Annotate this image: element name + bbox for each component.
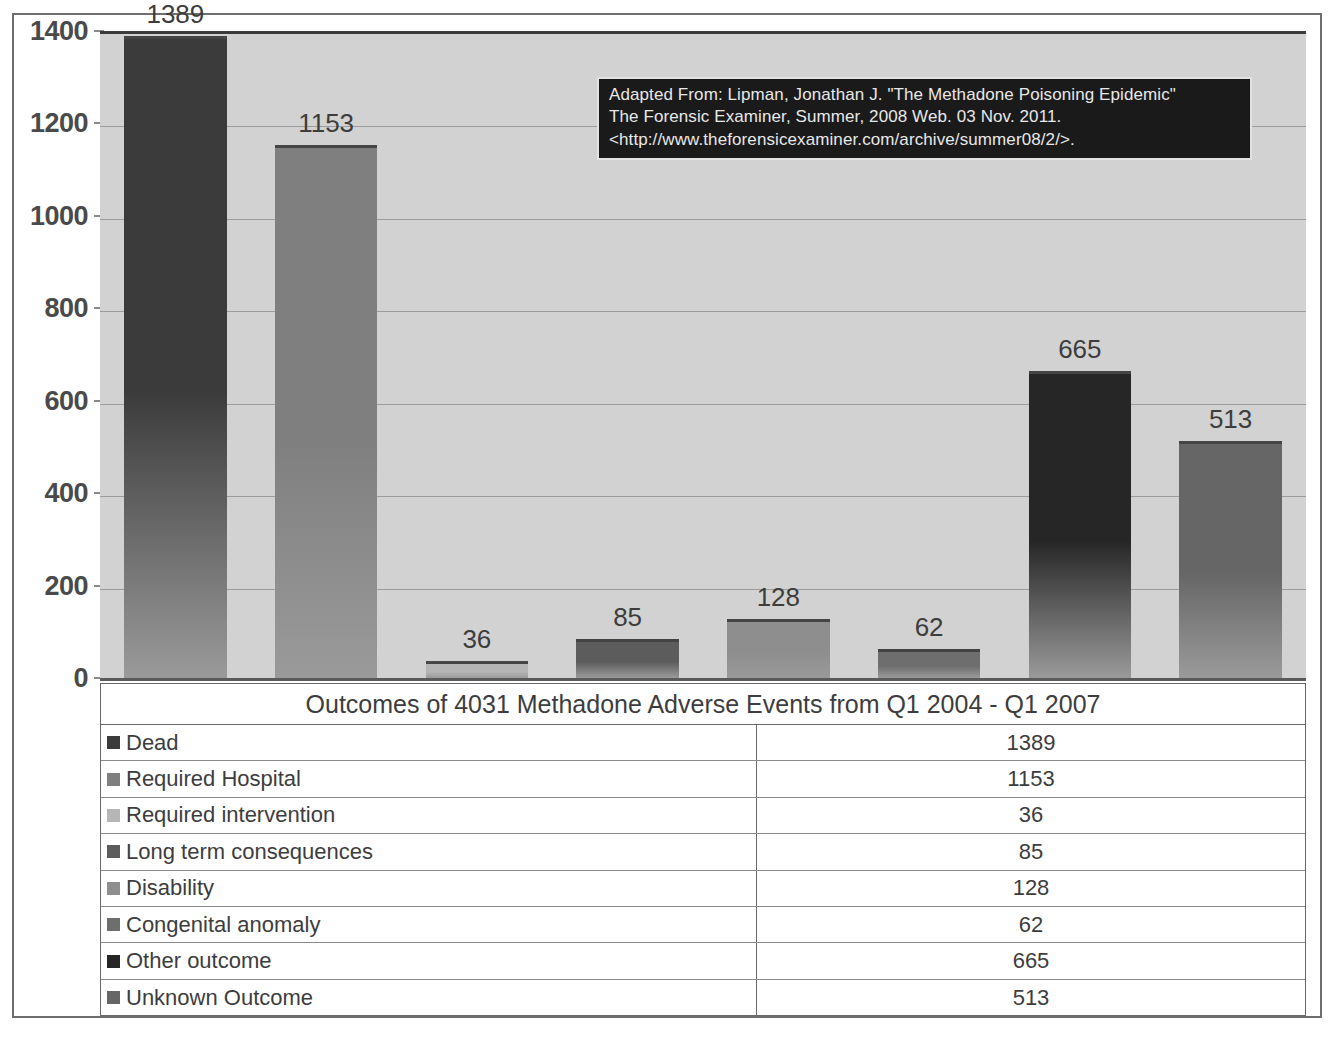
legend-swatch-icon (107, 845, 120, 858)
x-axis-baseline (100, 678, 1306, 681)
table-cell-label: Disability (101, 871, 757, 906)
bar-body (878, 649, 981, 678)
table-cell-value: 128 (757, 871, 1305, 906)
bar-value-label: 1153 (298, 108, 354, 139)
table-row: Long term consequences85 (101, 834, 1305, 870)
data-table: Outcomes of 4031 Methadone Adverse Event… (100, 683, 1306, 1016)
table-title-row: Outcomes of 4031 Methadone Adverse Event… (101, 684, 1305, 725)
table-row: Dead1389 (101, 725, 1305, 761)
bar-body (275, 145, 378, 678)
table-title: Outcomes of 4031 Methadone Adverse Event… (306, 690, 1101, 719)
citation-line-3: <http://www.theforensicexaminer.com/arch… (609, 129, 1242, 151)
y-axis-tick-label: 1400 (30, 16, 88, 47)
y-axis-tick-label: 1000 (30, 200, 88, 231)
y-axis-tick-label: 400 (44, 478, 88, 509)
bar: 62 (878, 649, 981, 678)
legend-swatch-icon (107, 918, 120, 931)
chart-figure: 0200400600800100012001400 13891153368512… (12, 13, 1322, 1018)
table-cell-value: 1153 (757, 761, 1305, 796)
table-row: Other outcome665 (101, 943, 1305, 979)
bar-body (1029, 371, 1132, 678)
bar-value-label: 1389 (146, 0, 204, 30)
bar-body (576, 639, 679, 678)
legend-swatch-icon (107, 991, 120, 1004)
table-cell-value: 665 (757, 943, 1305, 978)
table-body: Dead1389Required Hospital1153Required in… (101, 725, 1305, 1016)
series-label: Required intervention (126, 802, 335, 828)
table-cell-value: 36 (757, 798, 1305, 833)
y-axis-tick-label: 1200 (30, 108, 88, 139)
table-cell-value: 85 (757, 834, 1305, 869)
table-cell-label: Unknown Outcome (101, 980, 757, 1016)
table-cell-label: Other outcome (101, 943, 757, 978)
table-cell-label: Long term consequences (101, 834, 757, 869)
series-label: Other outcome (126, 948, 272, 974)
bar: 1389 (124, 36, 227, 678)
series-label: Congenital anomaly (126, 912, 320, 938)
y-axis: 0200400600800100012001400 (14, 15, 100, 683)
bar-body (727, 619, 830, 678)
bar-value-label: 513 (1209, 404, 1252, 435)
table-cell-label: Required Hospital (101, 761, 757, 796)
legend-swatch-icon (107, 773, 120, 786)
table-cell-label: Required intervention (101, 798, 757, 833)
legend-swatch-icon (107, 955, 120, 968)
table-row: Disability128 (101, 871, 1305, 907)
bar-body (426, 661, 529, 678)
series-label: Dead (126, 730, 179, 756)
source-annotation: Adapted From: Lipman, Jonathan J. "The M… (597, 77, 1252, 160)
table-row: Required Hospital1153 (101, 761, 1305, 797)
legend-swatch-icon (107, 736, 120, 749)
table-row: Congenital anomaly62 (101, 907, 1305, 943)
series-label: Disability (126, 875, 214, 901)
table-cell-label: Dead (101, 725, 757, 760)
plot-region: 0200400600800100012001400 13891153368512… (14, 15, 1320, 683)
bar: 513 (1179, 441, 1282, 678)
legend-swatch-icon (107, 809, 120, 822)
y-axis-tick-label: 0 (73, 663, 88, 694)
bar-value-label: 85 (613, 602, 642, 633)
bar-value-label: 665 (1058, 334, 1101, 365)
table-cell-value: 513 (757, 980, 1305, 1016)
bar-value-label: 62 (915, 612, 944, 643)
citation-line-2: The Forensic Examiner, Summer, 2008 Web.… (609, 106, 1242, 128)
bar: 85 (576, 639, 679, 678)
table-row: Unknown Outcome513 (101, 980, 1305, 1016)
table-cell-label: Congenital anomaly (101, 907, 757, 942)
series-label: Required Hospital (126, 766, 301, 792)
bar-value-label: 128 (757, 582, 800, 613)
bar: 128 (727, 619, 830, 678)
series-label: Unknown Outcome (126, 985, 313, 1011)
legend-swatch-icon (107, 882, 120, 895)
bar: 36 (426, 661, 529, 678)
bar: 665 (1029, 371, 1132, 678)
y-axis-tick-label: 200 (44, 570, 88, 601)
y-axis-tick-label: 600 (44, 385, 88, 416)
bar-body (1179, 441, 1282, 678)
table-row: Required intervention36 (101, 798, 1305, 834)
table-cell-value: 1389 (757, 725, 1305, 760)
series-label: Long term consequences (126, 839, 373, 865)
y-axis-tick-label: 800 (44, 293, 88, 324)
table-cell-value: 62 (757, 907, 1305, 942)
bar: 1153 (275, 145, 378, 678)
bar-body (124, 36, 227, 678)
bar-value-label: 36 (462, 624, 491, 655)
citation-line-1: Adapted From: Lipman, Jonathan J. "The M… (609, 84, 1242, 106)
